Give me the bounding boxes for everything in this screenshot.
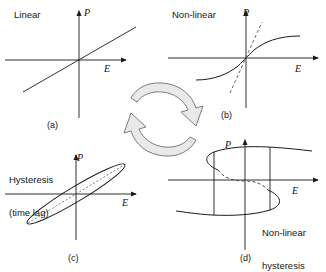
figure-background — [0, 0, 326, 272]
figure-canvas — [0, 0, 326, 272]
